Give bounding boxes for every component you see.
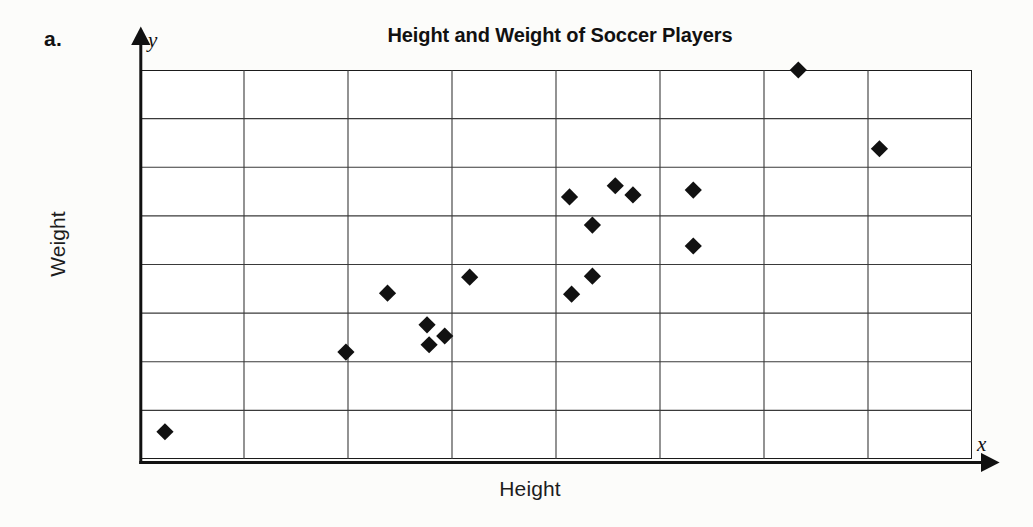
x-axis-title: Height — [430, 477, 630, 501]
x-axis-variable-label: x — [977, 432, 986, 457]
problem-letter-label: a. — [44, 27, 62, 51]
data-point-marker — [563, 286, 580, 303]
data-point-marker — [561, 188, 578, 205]
data-point-marker — [418, 316, 435, 333]
data-point-marker — [379, 285, 396, 302]
data-point-marker — [871, 140, 888, 157]
data-points-layer — [140, 70, 972, 459]
data-point-marker — [421, 336, 438, 353]
data-point-marker — [685, 237, 702, 254]
data-point-marker — [685, 182, 702, 199]
y-axis-title: Weight — [46, 164, 70, 324]
data-point-marker — [337, 343, 354, 360]
data-point-marker — [156, 423, 173, 440]
data-point-marker — [461, 269, 478, 286]
y-axis-variable-label: y — [148, 28, 157, 53]
data-point-marker — [436, 327, 453, 344]
data-point-marker — [790, 61, 807, 78]
scatter-plot — [140, 70, 972, 459]
worksheet-page: a. Height and Weight of Soccer Players y… — [0, 0, 1033, 527]
data-point-marker — [584, 217, 601, 234]
chart-title: Height and Weight of Soccer Players — [330, 24, 790, 47]
data-point-marker — [624, 186, 641, 203]
data-point-marker — [607, 177, 624, 194]
data-point-marker — [584, 268, 601, 285]
